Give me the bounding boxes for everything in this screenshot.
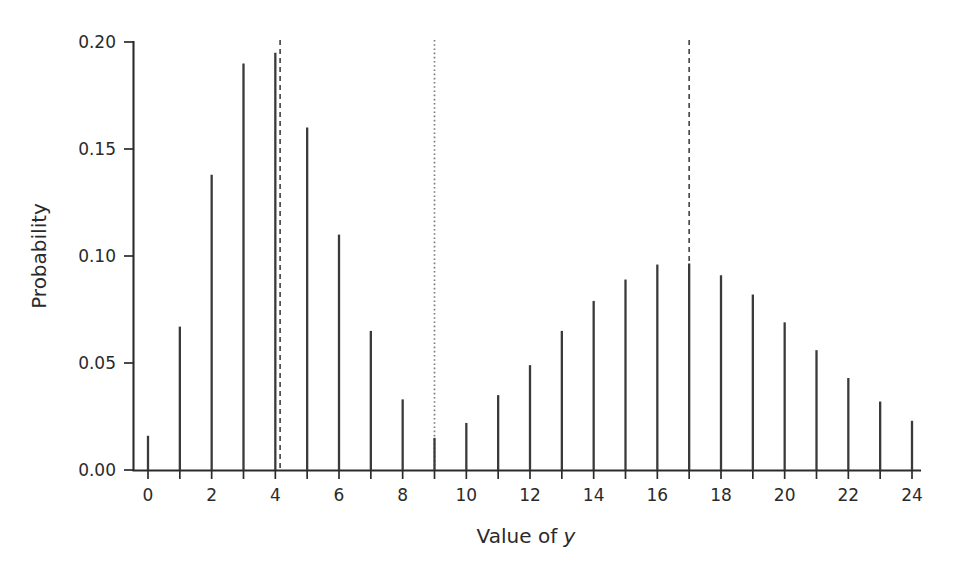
x-tick-label: 6: [334, 485, 345, 505]
chart-canvas: 0.000.050.100.150.20 0246810121416182022…: [0, 0, 961, 564]
x-tick-label: 16: [647, 485, 669, 505]
x-tick-label: 2: [206, 485, 217, 505]
y-tick-label: 0.20: [78, 32, 116, 52]
y-tick-label: 0.00: [78, 460, 116, 480]
figure-background: [0, 0, 961, 564]
x-tick-label: 10: [456, 485, 478, 505]
x-tick-label: 20: [774, 485, 796, 505]
x-tick-label: 12: [519, 485, 541, 505]
x-axis-title: Value of y: [477, 524, 577, 548]
y-tick-label: 0.15: [78, 139, 116, 159]
y-axis-title: Probability: [27, 203, 51, 309]
probability-distribution-figure: 0.000.050.100.150.20 0246810121416182022…: [0, 0, 961, 564]
x-axis-title-prefix: Value of: [477, 524, 564, 548]
y-tick-label: 0.10: [78, 246, 116, 266]
y-tick-label: 0.05: [78, 353, 116, 373]
x-tick-label: 14: [583, 485, 605, 505]
x-tick-label: 22: [838, 485, 860, 505]
x-tick-label: 24: [901, 485, 923, 505]
x-tick-label: 0: [143, 485, 154, 505]
x-axis-title-variable: y: [563, 524, 577, 548]
x-tick-label: 18: [710, 485, 732, 505]
x-tick-label: 8: [397, 485, 408, 505]
x-tick-label: 4: [270, 485, 281, 505]
